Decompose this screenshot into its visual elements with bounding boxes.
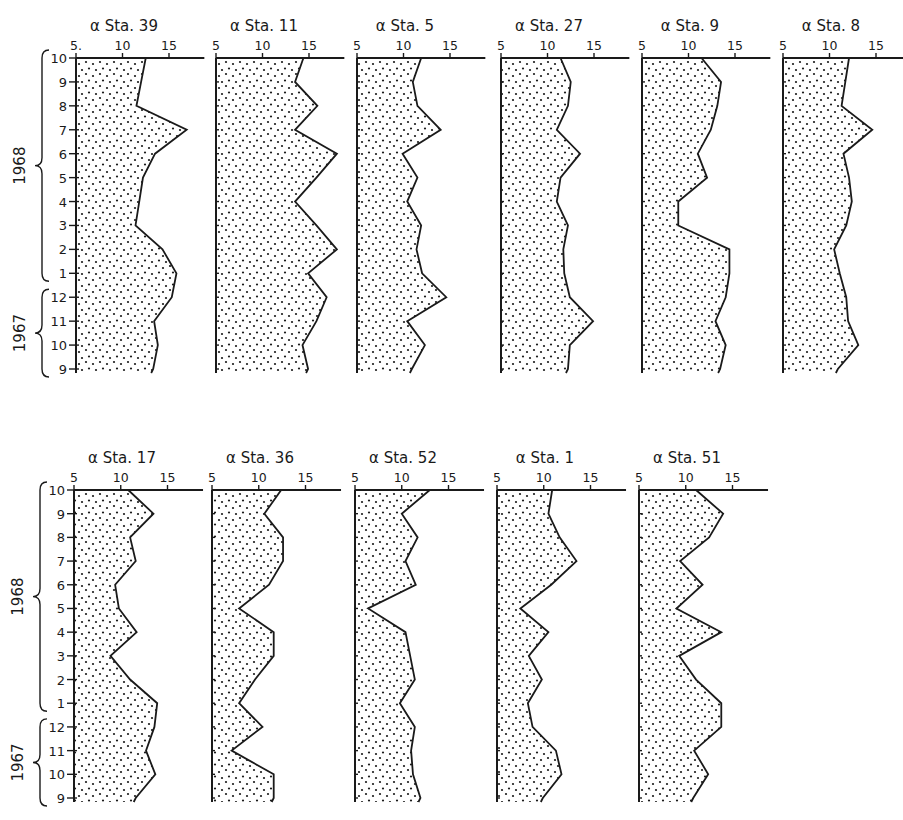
station-panel-27: 51015α Sta. 27 — [497, 17, 629, 373]
alpha-tick-label: 5. — [70, 38, 82, 53]
month-label: 12 — [48, 720, 65, 735]
month-label: 2 — [57, 673, 65, 688]
month-label: 10 — [48, 483, 65, 498]
alpha-tick-label: 5 — [635, 470, 643, 485]
panels-layer: 5.1015α Sta. 3951015α Sta. 1151015α Sta.… — [70, 17, 903, 802]
alpha-area — [783, 58, 872, 373]
station-title: α Sta. 8 — [802, 17, 860, 35]
station-title: α Sta. 51 — [653, 449, 721, 467]
alpha-tick-label: 5 — [208, 470, 216, 485]
station-panel-52: 51015α Sta. 52 — [351, 449, 484, 802]
alpha-tick-label: 15 — [301, 38, 317, 53]
month-label: 12 — [50, 290, 67, 305]
station-title: α Sta. 39 — [90, 17, 158, 35]
alpha-tick-label: 10 — [681, 38, 697, 53]
alpha-tick-label: 10 — [113, 470, 129, 485]
station-title: α Sta. 36 — [226, 449, 294, 467]
alpha-area — [212, 490, 283, 802]
alpha-tick-label: 10 — [540, 38, 556, 53]
month-label: 9 — [59, 75, 67, 90]
station-panel-5: 51015α Sta. 5 — [353, 17, 485, 373]
alpha-tick-label: 15 — [586, 38, 602, 53]
station-title: α Sta. 52 — [369, 449, 437, 467]
month-label: 7 — [59, 123, 67, 138]
month-label: 3 — [59, 218, 67, 233]
alpha-tick-label: 15 — [727, 38, 743, 53]
alpha-tick-label: 10 — [396, 38, 412, 53]
month-label: 10 — [50, 51, 67, 66]
station-panel-51: 51015α Sta. 51 — [635, 449, 768, 802]
alpha-tick-label: 15 — [442, 38, 458, 53]
month-label: 2 — [59, 242, 67, 257]
alpha-tick-label: 10 — [251, 470, 267, 485]
station-panel-8: 51015α Sta. 8 — [779, 17, 903, 373]
alpha-tick-label: 15 — [161, 38, 177, 53]
month-label: 4 — [59, 195, 67, 210]
alpha-tick-label: 5 — [493, 470, 501, 485]
alpha-tick-label: 5 — [353, 38, 361, 53]
month-label: 3 — [57, 649, 65, 664]
station-panel-9: 51015α Sta. 9 — [638, 17, 770, 373]
month-label: 4 — [57, 625, 65, 640]
station-title: α Sta. 17 — [88, 449, 156, 467]
alpha-area — [74, 490, 157, 802]
station-title: α Sta. 11 — [230, 17, 298, 35]
station-panel-17: 51015α Sta. 17 — [70, 449, 203, 802]
alpha-area — [355, 490, 430, 802]
alpha-area — [76, 58, 187, 373]
month-label: 11 — [48, 744, 65, 759]
alpha-area — [216, 58, 337, 373]
alpha-tick-label: 15 — [441, 470, 457, 485]
alpha-tick-label: 15 — [298, 470, 314, 485]
month-label: 5 — [57, 601, 65, 616]
alpha-tick-label: 15 — [583, 470, 599, 485]
alpha-tick-label: 5 — [497, 38, 505, 53]
alpha-tick-label: 5 — [779, 38, 787, 53]
month-label: 5 — [59, 171, 67, 186]
station-panel-1: 51015α Sta. 1 — [493, 449, 626, 802]
station-title: α Sta. 5 — [376, 17, 434, 35]
alpha-tick-label: 10 — [394, 470, 410, 485]
chart-canvas: 5.1015α Sta. 3951015α Sta. 1151015α Sta.… — [0, 0, 903, 820]
station-title: α Sta. 27 — [515, 17, 583, 35]
station-panel-11: 51015α Sta. 11 — [212, 17, 344, 373]
alpha-tick-label: 5 — [212, 38, 220, 53]
month-label: 10 — [50, 338, 67, 353]
alpha-tick-label: 15 — [160, 470, 176, 485]
month-label: 6 — [57, 578, 65, 593]
month-axis-row-1: 10987654321121110919681967 — [11, 50, 76, 377]
month-label: 9 — [59, 362, 67, 377]
station-panel-39: 5.1015α Sta. 39 — [70, 17, 204, 373]
alpha-tick-label: 5 — [70, 470, 78, 485]
month-label: 8 — [57, 530, 65, 545]
month-label: 1 — [59, 266, 67, 281]
year-brace — [33, 719, 47, 806]
alpha-area — [357, 58, 446, 373]
alpha-area — [501, 58, 593, 373]
alpha-tick-label: 10 — [255, 38, 271, 53]
month-axis-layer: 1098765432112111091968196710987654321121… — [9, 50, 76, 806]
alpha-tick-label: 5 — [351, 470, 359, 485]
year-label: 1967 — [11, 314, 29, 352]
month-label: 11 — [50, 314, 67, 329]
station-title: α Sta. 1 — [516, 449, 574, 467]
month-label: 6 — [59, 147, 67, 162]
month-label: 9 — [57, 791, 65, 806]
month-label: 9 — [57, 507, 65, 522]
month-axis-row-2: 10987654321121110919681967 — [9, 482, 74, 806]
month-label: 7 — [57, 554, 65, 569]
alpha-tick-label: 5 — [638, 38, 646, 53]
alpha-station-profiles-figure: 5.1015α Sta. 3951015α Sta. 1151015α Sta.… — [0, 0, 903, 820]
station-panel-36: 51015α Sta. 36 — [208, 449, 341, 802]
alpha-area — [639, 490, 723, 802]
year-brace — [35, 50, 49, 281]
alpha-area — [642, 58, 729, 373]
alpha-tick-label: 10 — [536, 470, 552, 485]
alpha-tick-label: 15 — [868, 38, 884, 53]
year-label: 1968 — [11, 147, 29, 185]
alpha-tick-label: 15 — [725, 470, 741, 485]
year-brace — [33, 482, 47, 711]
year-label: 1968 — [9, 578, 27, 616]
month-label: 8 — [59, 99, 67, 114]
alpha-tick-label: 10 — [678, 470, 694, 485]
